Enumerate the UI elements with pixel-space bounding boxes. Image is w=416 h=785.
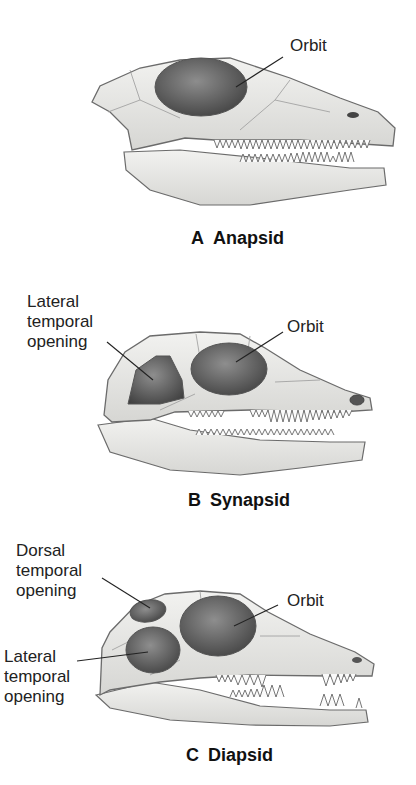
lateral-temporal-opening — [126, 627, 180, 673]
orbit-opening — [191, 343, 267, 395]
label-line: opening — [4, 687, 70, 707]
panel-letter-c: C — [186, 745, 199, 765]
panel-letter-a: A — [191, 228, 204, 248]
label-line: Lateral — [27, 292, 93, 312]
panel-title-c: Diapsid — [208, 745, 273, 765]
orbit-label-b: Orbit — [287, 317, 324, 337]
panel-anapsid: Orbit AAnapsid — [0, 0, 416, 265]
orbit-label-c: Orbit — [287, 591, 324, 611]
lower-teeth — [196, 429, 334, 435]
panel-letter-b: B — [188, 490, 201, 510]
label-line: Dorsal — [16, 541, 82, 561]
nostril — [350, 395, 364, 405]
upper-teeth — [214, 140, 370, 149]
label-line: Lateral — [4, 647, 70, 667]
orbit-label-a: Orbit — [290, 36, 327, 56]
nostril — [352, 657, 362, 663]
panel-diapsid: Dorsal temporal opening Lateral temporal… — [0, 530, 416, 785]
orbit-opening — [155, 58, 247, 116]
label-line: opening — [16, 581, 82, 601]
lateral-temporal-label-b: Lateral temporal opening — [27, 292, 93, 352]
dorsal-temporal-label-c: Dorsal temporal opening — [16, 541, 82, 601]
anapsid-skull-illustration — [0, 0, 416, 265]
label-line: temporal — [16, 561, 82, 581]
panel-caption-b: BSynapsid — [188, 490, 290, 511]
lower-teeth — [240, 152, 354, 162]
panel-synapsid: Lateral temporal opening Orbit BSynapsid — [0, 270, 416, 525]
lower-jaw — [98, 418, 365, 475]
upper-teeth — [188, 410, 352, 422]
orbit-opening — [180, 596, 256, 656]
panel-title-b: Synapsid — [210, 490, 290, 510]
panel-title-a: Anapsid — [213, 228, 284, 248]
skull — [92, 58, 395, 150]
nostril — [347, 112, 359, 118]
label-line: opening — [27, 332, 93, 352]
dorsal-leader-line — [102, 578, 150, 608]
label-line: temporal — [4, 667, 70, 687]
panel-caption-c: CDiapsid — [186, 745, 273, 766]
lateral-temporal-label-c: Lateral temporal opening — [4, 647, 70, 707]
panel-caption-a: AAnapsid — [191, 228, 284, 249]
label-line: temporal — [27, 312, 93, 332]
